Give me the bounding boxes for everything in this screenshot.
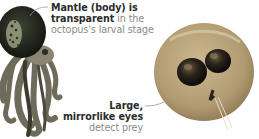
larva-eye-right (205, 49, 231, 73)
eyes-annotation: Large, mirrorlike eyes detect prey (33, 100, 143, 133)
larva-photo (154, 23, 254, 130)
mantle-mottled-patch (6, 20, 22, 48)
eyes-annotation-line3: detect prey (33, 122, 143, 133)
eyes-annotation-line1: Large, (33, 100, 143, 111)
octopus-eye (42, 49, 48, 55)
mantle-annotation: Mantle (body) is transparent in the octo… (51, 2, 191, 35)
mantle-annotation-rest: in the (114, 13, 144, 24)
leader-line-eyes (145, 102, 164, 106)
eyes-annotation-line2: mirrorlike eyes (33, 111, 143, 122)
larva-eye-left (177, 58, 207, 86)
mantle-annotation-line2: transparent in the (51, 13, 191, 24)
mantle-annotation-line3: octopus's larval stage (51, 24, 191, 35)
mantle-annotation-bold: transparent (51, 13, 114, 24)
mantle-annotation-line1: Mantle (body) is (51, 2, 191, 13)
